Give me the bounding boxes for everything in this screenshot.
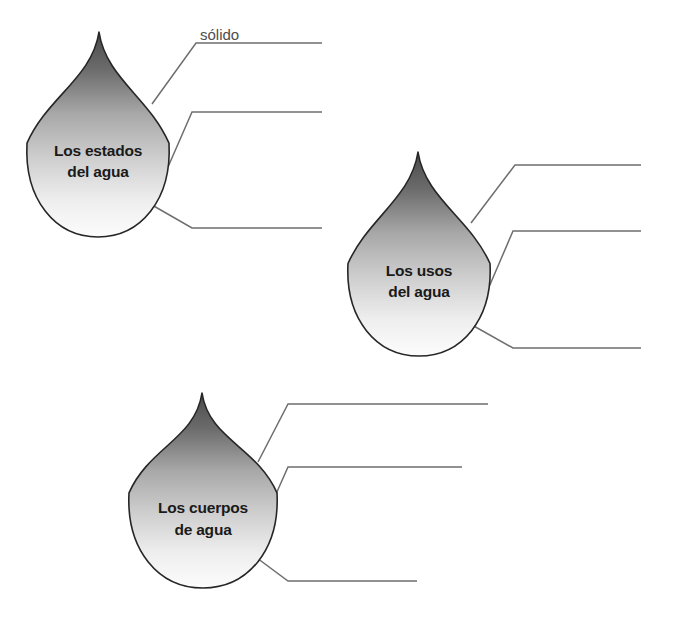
droplet-shape-estados [27,32,169,237]
droplet-title-line2-cuerpos: de agua [174,521,232,538]
droplet-title-line1-estados: Los estados [54,142,142,159]
droplet-group-cuerpos: Los cuerposde agua [129,393,488,588]
droplet-title-line1-usos: Los usos [386,262,452,279]
worksheet-diagram: Los estadosdel aguasólidoLos usosdel agu… [0,0,677,621]
answer-text-estados-1[interactable]: sólido [200,26,239,43]
answer-leader-line-estados-1[interactable] [152,43,322,104]
droplet-shape-cuerpos [129,393,277,588]
answer-leader-line-estados-2[interactable] [168,112,322,167]
answer-leader-line-usos-1[interactable] [471,165,641,223]
droplet-title-line2-usos: del agua [388,283,450,300]
droplet-title-line1-cuerpos: Los cuerpos [158,499,248,516]
answer-leader-line-cuerpos-3[interactable] [257,558,417,581]
answer-leader-line-cuerpos-1[interactable] [258,404,488,462]
answer-leader-line-usos-2[interactable] [489,231,641,287]
droplet-group-usos: Los usosdel agua [348,152,641,356]
droplet-shape-usos [348,152,490,356]
answer-leader-line-cuerpos-2[interactable] [272,467,462,503]
answer-leader-line-estados-3[interactable] [152,205,322,228]
droplet-group-estados: Los estadosdel aguasólido [27,26,322,237]
worksheet-canvas: Los estadosdel aguasólidoLos usosdel agu… [0,0,677,621]
answer-leader-line-usos-3[interactable] [472,325,641,348]
droplet-title-line2-estados: del agua [67,163,129,180]
